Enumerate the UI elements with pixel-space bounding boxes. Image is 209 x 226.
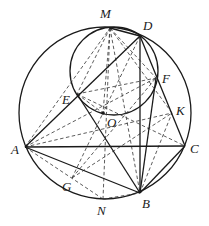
inner-circle	[70, 27, 158, 115]
label-M: M	[99, 6, 112, 21]
label-F: F	[161, 71, 171, 86]
segment-BK	[140, 113, 172, 193]
solid-lines	[25, 28, 185, 193]
segment-FB	[140, 78, 156, 193]
segment-EO	[77, 94, 103, 113]
circles	[19, 27, 191, 199]
label-N: N	[96, 203, 107, 218]
label-C: C	[190, 141, 199, 156]
label-B: B	[142, 196, 150, 211]
geometry-diagram: MDEFOKACGNB	[0, 0, 209, 226]
segment-AB	[25, 147, 140, 193]
label-O: O	[107, 115, 117, 130]
label-D: D	[142, 18, 153, 33]
label-G: G	[62, 179, 72, 194]
label-K: K	[175, 103, 186, 118]
label-E: E	[61, 92, 70, 107]
center-point-O	[101, 111, 105, 115]
segment-AD	[25, 36, 140, 147]
segment-GK	[72, 113, 172, 178]
label-A: A	[10, 142, 19, 157]
segment-DC	[140, 36, 185, 146]
circumcircle	[19, 27, 191, 199]
points	[101, 111, 105, 115]
segment-AF	[25, 78, 156, 147]
segment-AC	[25, 146, 185, 147]
segment-AM	[25, 28, 110, 147]
segment-BC	[140, 146, 185, 193]
segment-NB	[103, 193, 140, 199]
segment-MF	[110, 28, 156, 78]
